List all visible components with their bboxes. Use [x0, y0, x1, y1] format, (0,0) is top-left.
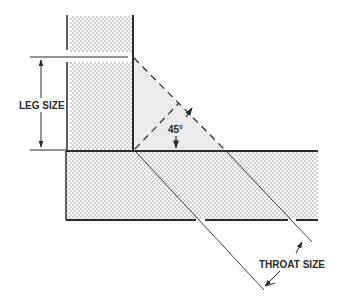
weld-bead	[134, 58, 225, 150]
throat-size-label: THROAT SIZE	[259, 259, 325, 270]
horizontal-plate	[66, 151, 318, 220]
fillet-weld-diagram: LEG SIZE 45° THROAT SIZE	[0, 0, 339, 305]
angle-label: 45°	[168, 124, 183, 135]
vertical-plate	[67, 15, 133, 151]
leg-size-label: LEG SIZE	[19, 100, 65, 111]
